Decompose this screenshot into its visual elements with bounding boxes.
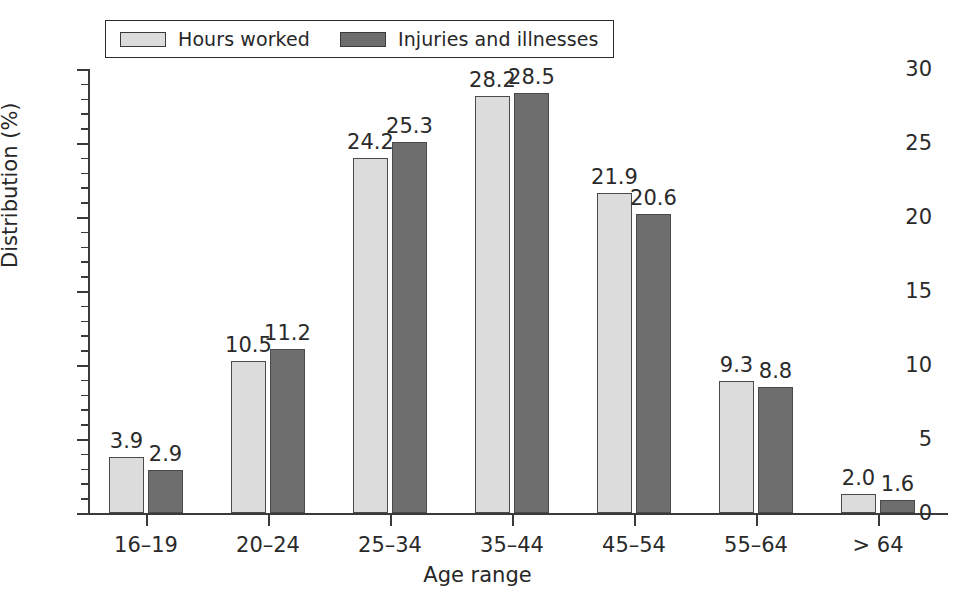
x-axis-tick	[146, 513, 148, 526]
bar	[841, 494, 876, 513]
bar	[719, 381, 754, 513]
y-axis-tick-label: 0	[919, 501, 932, 525]
y-axis-minor-tick	[81, 99, 88, 101]
y-axis-tick	[77, 365, 88, 367]
y-axis-minor-tick	[81, 469, 88, 471]
y-axis-minor-tick	[81, 276, 88, 278]
bar	[514, 93, 549, 513]
y-axis-minor-tick	[81, 424, 88, 426]
bar	[148, 470, 183, 513]
x-axis-tick-label: 45–54	[602, 533, 666, 557]
bar-chart-figure: Hours worked Injuries and illnesses 0510…	[0, 0, 955, 599]
y-axis-minor-tick	[81, 335, 88, 337]
y-axis-tick-label: 30	[905, 57, 932, 81]
bar-value-label: 3.9	[110, 429, 143, 453]
bar	[597, 193, 632, 513]
y-axis-tick	[77, 291, 88, 293]
y-axis-tick	[77, 69, 88, 71]
x-axis-tick-label: 16–19	[114, 533, 178, 557]
y-axis-minor-tick	[81, 173, 88, 175]
y-axis-minor-tick	[81, 380, 88, 382]
y-axis-tick	[77, 217, 88, 219]
legend-label-injuries-and-illnesses: Injuries and illnesses	[398, 28, 599, 50]
x-axis-tick	[390, 513, 392, 526]
legend-swatch-hours-worked	[120, 32, 166, 47]
bar	[758, 387, 793, 513]
legend-label-hours-worked: Hours worked	[178, 28, 310, 50]
bar-value-label: 25.3	[386, 114, 433, 138]
y-axis-tick-label: 20	[905, 205, 932, 229]
x-axis-tick	[634, 513, 636, 526]
y-axis-minor-tick	[81, 202, 88, 204]
x-axis-tick-label: > 64	[853, 533, 904, 557]
bar-value-label: 28.5	[508, 65, 555, 89]
chart-legend: Hours worked Injuries and illnesses	[105, 20, 614, 58]
bar	[270, 349, 305, 513]
bar	[109, 457, 144, 513]
x-axis-line	[88, 513, 948, 515]
bar-value-label: 20.6	[630, 186, 677, 210]
bar	[231, 361, 266, 513]
bar-value-label: 2.0	[842, 466, 875, 490]
bar	[353, 158, 388, 513]
y-axis-minor-tick	[81, 113, 88, 115]
x-axis-tick-label: 35–44	[480, 533, 544, 557]
y-axis-tick	[77, 143, 88, 145]
bar-value-label: 11.2	[264, 321, 311, 345]
x-axis-tick-label: 20–24	[236, 533, 300, 557]
y-axis-tick	[77, 439, 88, 441]
x-axis-tick	[756, 513, 758, 526]
x-axis-tick-label: 55–64	[724, 533, 788, 557]
y-axis-minor-tick	[81, 395, 88, 397]
y-axis-tick-label: 5	[919, 427, 932, 451]
y-axis-minor-tick	[81, 483, 88, 485]
legend-swatch-injuries-and-illnesses	[340, 32, 386, 47]
legend-entry-injuries-and-illnesses: Injuries and illnesses	[340, 28, 599, 50]
y-axis-minor-tick	[81, 409, 88, 411]
bar-value-label: 9.3	[720, 353, 753, 377]
y-axis-minor-tick	[81, 187, 88, 189]
x-axis-tick-label: 25–34	[358, 533, 422, 557]
bar	[392, 142, 427, 513]
y-axis-minor-tick	[81, 84, 88, 86]
y-axis-minor-tick	[81, 321, 88, 323]
legend-entry-hours-worked: Hours worked	[120, 28, 310, 50]
y-axis-tick	[77, 513, 88, 515]
x-axis-title: Age range	[0, 563, 955, 587]
x-axis-tick	[268, 513, 270, 526]
y-axis-minor-tick	[81, 232, 88, 234]
y-axis-minor-tick	[81, 306, 88, 308]
y-axis-minor-tick	[81, 498, 88, 500]
y-axis-minor-tick	[81, 261, 88, 263]
y-axis-tick-label: 15	[905, 279, 932, 303]
x-axis-tick	[878, 513, 880, 526]
y-axis-minor-tick	[81, 247, 88, 249]
y-axis-tick-label: 25	[905, 131, 932, 155]
y-axis-minor-tick	[81, 128, 88, 130]
y-axis-minor-tick	[81, 454, 88, 456]
y-axis-minor-tick	[81, 158, 88, 160]
y-axis-title: Distribution (%)	[0, 102, 22, 268]
y-axis-minor-tick	[81, 350, 88, 352]
bar	[636, 214, 671, 513]
bar	[880, 500, 915, 513]
bar	[475, 96, 510, 513]
plot-area: 051015202530 16–1920–2425–3435–4445–5455…	[88, 69, 948, 513]
bar-value-label: 2.9	[149, 442, 182, 466]
x-axis-tick	[512, 513, 514, 526]
y-axis-tick-label: 10	[905, 353, 932, 377]
y-axis-line	[88, 69, 90, 513]
bar-value-label: 8.8	[759, 359, 792, 383]
bar-value-label: 1.6	[881, 472, 914, 496]
